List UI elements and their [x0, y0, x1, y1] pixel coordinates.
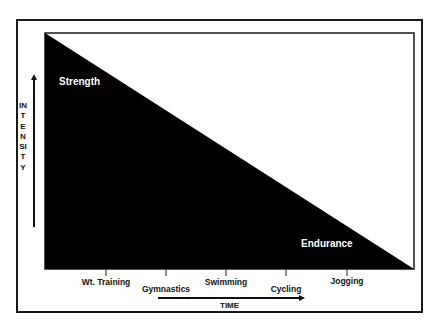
time-axis-label: TIME: [220, 301, 239, 310]
activity-swimming: Swimming: [205, 277, 248, 287]
intensity-arrow-icon: [31, 74, 37, 227]
intensity-axis-label: INTENSITY: [19, 101, 27, 173]
x-ticks: [106, 269, 347, 276]
activity-jogging: Jogging: [330, 276, 363, 286]
activity-gymnastics: Gymnastics: [142, 284, 190, 294]
activity-cycling: Cycling: [271, 284, 302, 294]
activity-wt-training: Wt. Training: [82, 277, 131, 287]
intensity-triangle: [45, 33, 414, 269]
endurance-label: Endurance: [301, 238, 353, 249]
strength-label: Strength: [59, 76, 100, 87]
